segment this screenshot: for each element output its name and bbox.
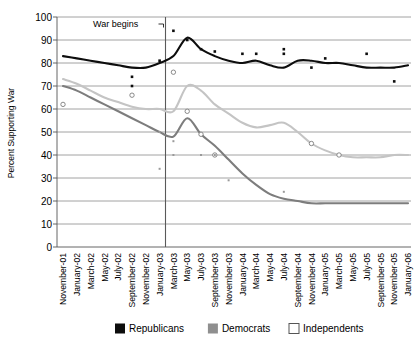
- data-point-democrats-4: [200, 154, 202, 156]
- data-point-republicans-1: [131, 85, 134, 88]
- data-point-democrats-2: [172, 154, 174, 156]
- legend-swatch-independents: [289, 324, 299, 334]
- x-tick-label-november-01: November-01: [58, 253, 68, 305]
- x-tick-label-may-02: May-02: [100, 253, 110, 282]
- y-tick-label-60: 60: [41, 104, 53, 115]
- series-points-group: [61, 30, 396, 193]
- x-tick-label-november-05: November-05: [389, 253, 399, 305]
- x-tick-label-january-04: January-04: [238, 253, 248, 296]
- x-tick-label-september-02: September-02: [127, 253, 137, 308]
- x-tick-label-march-03: March-03: [169, 253, 179, 290]
- data-point-republicans-6: [214, 50, 217, 53]
- x-tick-label-september-04: September-04: [293, 253, 303, 308]
- y-tick-label-0: 0: [46, 242, 52, 253]
- x-tick-label-january-03: January-03: [155, 253, 165, 296]
- y-tick-label-100: 100: [35, 12, 52, 23]
- data-point-republicans-11: [310, 66, 313, 69]
- x-tick-label-may-05: May-05: [348, 253, 358, 282]
- data-point-democrats-6: [228, 179, 230, 181]
- data-point-democrats-7: [283, 191, 285, 193]
- data-point-republicans-12: [324, 57, 327, 60]
- y-tick-label-90: 90: [41, 35, 53, 46]
- data-point-republicans-14: [393, 80, 396, 83]
- y-axis-title: Percent Supporting War: [6, 88, 16, 179]
- data-point-democrats-5: [214, 154, 216, 156]
- data-point-democrats-3: [159, 168, 161, 170]
- y-tick-label-20: 20: [41, 196, 53, 207]
- data-point-democrats-0: [159, 131, 161, 133]
- data-point-independents-3: [185, 109, 189, 113]
- x-tick-label-november-02: November-02: [141, 253, 151, 305]
- x-tick-label-november-04: November-04: [307, 253, 317, 305]
- gridlines-group: [57, 17, 411, 224]
- x-axis-tick-labels: November-01January-02March-02May-02July-…: [58, 253, 413, 308]
- y-tick-label-70: 70: [41, 81, 53, 92]
- x-tick-label-july-05: July-05: [362, 253, 372, 281]
- percent-supporting-war-line-chart: 0102030405060708090100 Percent Supportin…: [0, 0, 420, 347]
- data-point-independents-1: [130, 93, 134, 97]
- legend-swatch-republicans: [115, 324, 125, 334]
- y-axis-tick-labels: 0102030405060708090100: [35, 12, 57, 253]
- x-tick-label-march-02: March-02: [86, 253, 96, 290]
- x-tick-label-march-04: March-04: [251, 253, 261, 290]
- y-tick-label-30: 30: [41, 173, 53, 184]
- x-tick-label-september-05: September-05: [376, 253, 386, 308]
- x-tick-label-march-05: March-05: [334, 253, 344, 290]
- war-begins-leader-line: [159, 24, 164, 28]
- data-point-independents-2: [171, 70, 175, 74]
- data-point-republicans-10: [283, 53, 286, 56]
- x-tick-label-july-04: July-04: [279, 253, 289, 281]
- war-begins-annotation: War begins: [93, 19, 139, 29]
- data-point-republicans-2: [158, 59, 161, 62]
- data-point-republicans-0: [131, 76, 134, 79]
- x-tick-label-july-03: July-03: [196, 253, 206, 281]
- y-tick-label-80: 80: [41, 58, 53, 69]
- data-point-republicans-4: [186, 39, 189, 42]
- legend: RepublicansDemocratsIndependents: [115, 323, 364, 334]
- y-tick-label-50: 50: [41, 127, 53, 138]
- series-lines-group: [63, 38, 408, 204]
- x-tick-label-november-03: November-03: [224, 253, 234, 305]
- data-point-republicans-5: [200, 48, 203, 51]
- data-point-independents-7: [337, 153, 341, 157]
- x-tick-label-september-03: September-03: [210, 253, 220, 308]
- x-tick-label-january-05: January-05: [320, 253, 330, 296]
- series-line-republicans: [63, 38, 408, 68]
- legend-label-independents: Independents: [303, 323, 364, 334]
- y-tick-label-40: 40: [41, 150, 53, 161]
- data-point-republicans-13: [365, 53, 368, 56]
- x-tick-label-january-02: January-02: [72, 253, 82, 296]
- series-line-democrats: [63, 86, 408, 203]
- data-point-republicans-9: [283, 48, 286, 51]
- data-point-independents-0: [61, 102, 65, 106]
- x-tick-label-july-02: July-02: [113, 253, 123, 281]
- legend-swatch-democrats: [208, 324, 218, 334]
- data-point-republicans-8: [255, 53, 258, 56]
- data-point-independents-4: [199, 132, 203, 136]
- data-point-independents-6: [309, 141, 313, 145]
- data-point-democrats-1: [172, 140, 174, 142]
- chart-container: 0102030405060708090100 Percent Supportin…: [0, 0, 420, 347]
- y-tick-label-10: 10: [41, 219, 53, 230]
- data-point-republicans-3: [172, 30, 175, 33]
- x-tick-label-may-03: May-03: [182, 253, 192, 282]
- legend-label-democrats: Democrats: [222, 323, 270, 334]
- legend-label-republicans: Republicans: [129, 323, 184, 334]
- x-tick-label-may-04: May-04: [265, 253, 275, 282]
- x-tick-label-january-06: January-06: [403, 253, 413, 296]
- data-point-republicans-7: [241, 53, 244, 56]
- series-line-independents: [63, 79, 408, 157]
